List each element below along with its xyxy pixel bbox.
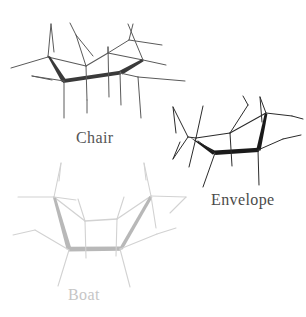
chair-label: Chair — [76, 129, 114, 147]
figure-background — [0, 0, 306, 317]
conformations-figure — [0, 0, 306, 317]
boat-label: Boat — [68, 286, 100, 304]
boat-bold-bond-b — [69, 246, 121, 251]
envelope-label: Envelope — [211, 191, 275, 209]
